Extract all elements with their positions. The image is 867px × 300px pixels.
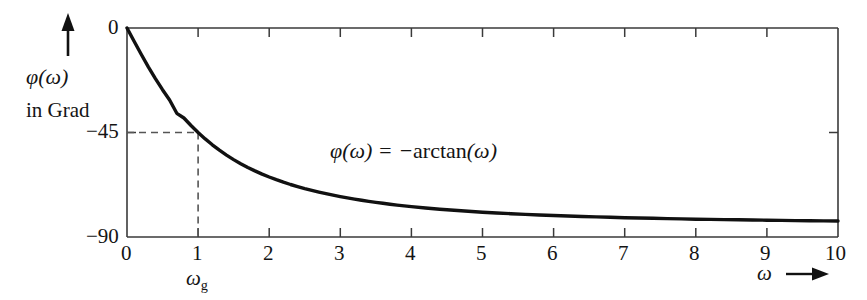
y-axis-unit-label: in Grad xyxy=(26,100,90,121)
formula-annotation: φ(ω) = −arctan(ω) xyxy=(330,140,497,162)
x-tick-label-6: 6 xyxy=(547,243,558,264)
x-tick-label-10: 10 xyxy=(825,243,846,264)
guide-lines xyxy=(127,133,198,238)
y-tick-label-0: 0 xyxy=(108,17,119,38)
x-tick-label-4: 4 xyxy=(405,243,416,264)
y-tick-label-minus45: −45 xyxy=(86,121,119,142)
x-tick-label-7: 7 xyxy=(618,243,629,264)
x-axis-arrow-icon xyxy=(786,268,829,281)
y-axis-arrow-icon xyxy=(62,13,75,56)
phase-response-chart: φ(ω) in Grad 0 −45 −90 0 1 2 3 4 5 6 7 8… xyxy=(0,0,867,300)
x-tick-label-5: 5 xyxy=(476,243,487,264)
cutoff-frequency-label: ωg xyxy=(186,268,208,292)
x-tick-label-2: 2 xyxy=(263,243,274,264)
x-axis-ticks-top xyxy=(198,28,767,37)
plot-frame xyxy=(127,28,838,237)
x-axis-title: ω xyxy=(757,263,772,284)
y-tick-label-minus90: −90 xyxy=(86,226,119,247)
x-tick-label-8: 8 xyxy=(689,243,700,264)
x-tick-label-1: 1 xyxy=(192,243,203,264)
x-axis-ticks-bottom xyxy=(198,228,767,237)
y-axis-title: φ(ω) xyxy=(26,66,68,88)
x-tick-label-3: 3 xyxy=(334,243,345,264)
x-tick-label-0: 0 xyxy=(121,243,132,264)
phase-curve xyxy=(127,28,838,221)
